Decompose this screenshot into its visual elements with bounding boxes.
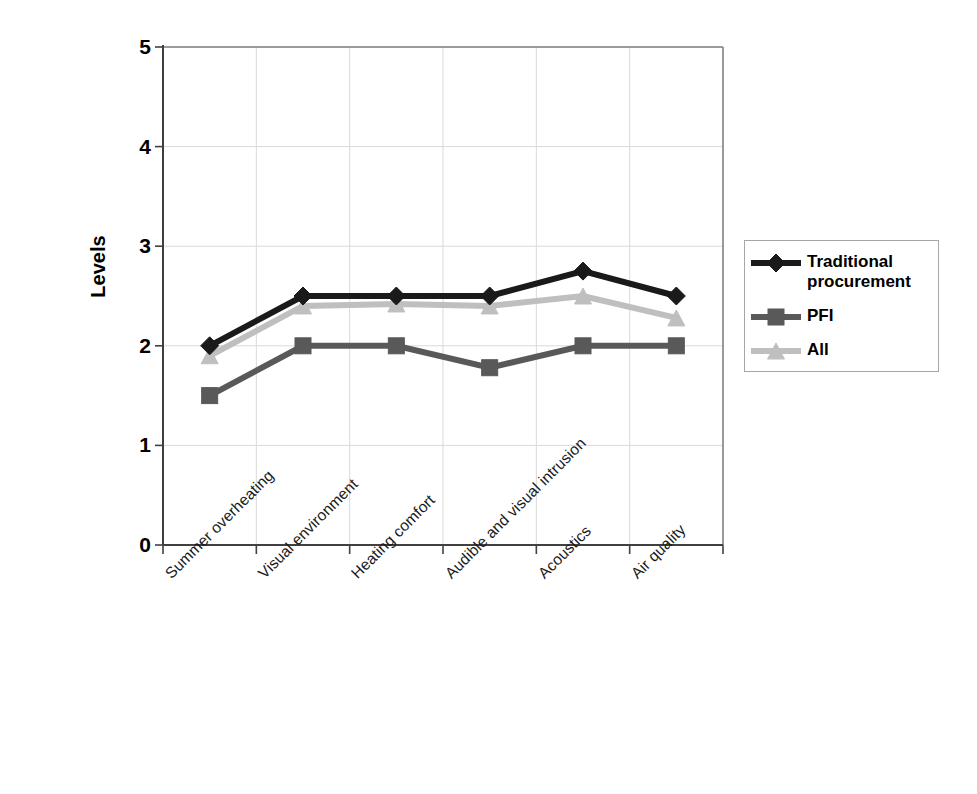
series-marker-3 xyxy=(482,360,498,376)
legend-key-glyph xyxy=(745,337,807,365)
legend-key-glyph xyxy=(745,303,807,331)
legend-key-marker-1 xyxy=(768,309,784,325)
legend-key-glyph xyxy=(745,249,807,277)
series-marker-5 xyxy=(667,287,685,305)
legend-item-2[interactable]: All xyxy=(745,337,938,365)
legend-marker-triangle-icon xyxy=(745,337,807,365)
series-marker-4 xyxy=(575,338,591,354)
series-marker-5 xyxy=(668,338,684,354)
legend-key-marker-0 xyxy=(767,254,785,272)
series-marker-1 xyxy=(295,338,311,354)
series-marker-0 xyxy=(202,388,218,404)
series-marker-4 xyxy=(574,262,592,280)
series-marker-2 xyxy=(388,338,404,354)
plot-area xyxy=(0,0,977,794)
legend-marker-square-icon xyxy=(745,303,807,331)
chart-legend: Traditional procurementPFIAll xyxy=(744,240,939,372)
legend-item-1[interactable]: PFI xyxy=(745,303,938,331)
legend-label-1: PFI xyxy=(807,303,833,326)
legend-item-0[interactable]: Traditional procurement xyxy=(745,249,938,277)
line-chart: Levels 012345 Summer overheatingVisual e… xyxy=(0,0,977,794)
legend-label-2: All xyxy=(807,337,829,360)
legend-marker-diamond-icon xyxy=(745,249,807,277)
legend-label-0: Traditional procurement xyxy=(807,249,911,292)
axis-lines xyxy=(155,45,723,554)
